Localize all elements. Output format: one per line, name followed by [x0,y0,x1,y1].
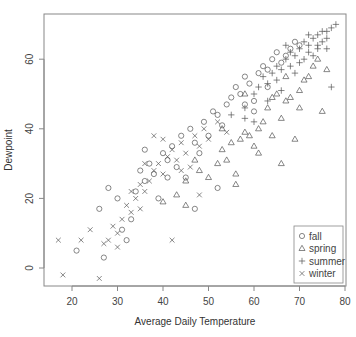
y-tick-label: 20 [24,192,35,204]
summer-point [287,63,293,69]
fall-point [265,67,270,72]
summer-point [315,46,321,52]
summer-point [278,66,284,72]
fall-point [192,206,197,211]
fall-point [106,185,111,190]
fall-point [292,39,297,44]
spring-point [283,73,289,78]
fall-point [192,140,197,145]
winter-point [179,140,184,145]
fall-point [229,95,234,100]
spring-point [278,160,284,165]
fall-point [270,57,275,62]
spring-point [292,136,298,141]
winter-point [156,161,161,166]
spring-point [219,146,225,151]
fall-point [160,151,165,156]
summer-point [324,35,330,41]
winter-point [120,217,125,222]
spring-point [233,181,239,186]
fall-point [147,161,152,166]
winter-point [202,126,207,131]
fall-point [115,196,120,201]
spring-point [224,157,230,162]
x-tick-label: 40 [157,296,169,307]
winter-point [124,203,129,208]
summer-point [333,21,339,27]
fall-point [233,84,238,89]
spring-point [215,160,221,165]
spring-point [319,108,325,113]
winter-point [152,133,157,138]
y-tick-label: 40 [24,123,35,135]
spring-point [237,136,243,141]
summer-point [296,59,302,65]
fall-point [251,98,256,103]
spring-point [297,105,303,110]
spring-point [306,73,312,78]
fall-point [124,238,129,243]
summer-point [292,70,298,76]
summer-point [305,49,311,55]
spring-point [310,63,316,68]
legend-winter-label: winter [308,268,336,279]
winter-point [97,276,102,281]
x-tick-label: 50 [203,296,215,307]
y-axis-label: Dewpoint [3,129,14,171]
winter-point [161,172,166,177]
winter-point [115,231,120,236]
spring-point [315,56,321,61]
x-tick-label: 80 [339,296,351,307]
fall-point [197,151,202,156]
fall-point [274,50,279,55]
winter-point [183,151,188,156]
spring-point [196,167,202,172]
spring-point [278,115,284,120]
summer-point [324,28,330,34]
spring-point [251,143,257,148]
summer-point [310,35,316,41]
spring-point [228,140,234,145]
spring-point [256,126,262,131]
winter-point [188,165,193,170]
x-tick-label: 30 [112,296,124,307]
winter-point [138,182,143,187]
winter-point [133,196,138,201]
spring-point [233,171,239,176]
winter-point [111,224,116,229]
spring-point [274,91,280,96]
spring-point [206,174,212,179]
spring-point [192,157,198,162]
fall-point [119,227,124,232]
fall-point [224,102,229,107]
fall-point [210,109,215,114]
winter-point [170,147,175,152]
fall-point [101,255,106,260]
x-tick-label: 60 [248,296,260,307]
y-tick-label: 60 [24,53,35,65]
winter-point [88,227,93,232]
fall-point [97,206,102,211]
fall-point [174,164,179,169]
spring-point [324,66,330,71]
summer-point [315,32,321,38]
winter-point [61,273,66,278]
winter-point [215,119,220,124]
winter-point [165,154,170,159]
summer-point [310,53,316,59]
spring-point [174,192,180,197]
summer-point [251,119,257,125]
winter-point [206,137,211,142]
fall-point [142,178,147,183]
x-axis-label: Average Daily Temperature [135,316,256,327]
fall-point [133,189,138,194]
winter-point [174,158,179,163]
fall-point [256,71,261,76]
summer-point [301,56,307,62]
fall-point [74,248,79,253]
spring-point [269,133,275,138]
fall-point [142,147,147,152]
winter-point [197,144,202,149]
fall-point [251,109,256,114]
winter-point [106,238,111,243]
